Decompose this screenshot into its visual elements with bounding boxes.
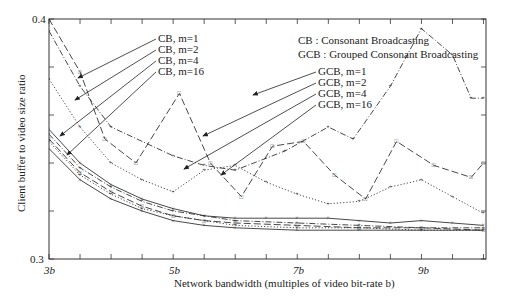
data-marker: □	[302, 138, 306, 144]
data-marker: ×	[171, 218, 174, 224]
x-axis-label: Network bandwidth (multiples of video bi…	[174, 277, 395, 290]
data-marker: ×	[109, 196, 112, 202]
gcb-annotations: GCB, m=1 GCB, m=2 GCB, m=4 GCB, m=16	[184, 65, 372, 175]
data-marker: □	[103, 136, 107, 142]
x-tick-9b: 9b	[418, 264, 430, 276]
x-tick-7b: 7b	[293, 264, 305, 276]
data-marker: ×	[482, 227, 485, 233]
arrow-cb-m1	[78, 39, 156, 78]
y-tick-top: 0.4	[32, 13, 46, 25]
data-marker: +	[419, 26, 423, 32]
data-marker: □	[469, 174, 473, 180]
y-axis-label: Client buffer to video size ratio	[15, 74, 27, 212]
annotation-gcb-m16: GCB, m=16	[318, 98, 372, 110]
data-marker: ×	[419, 227, 422, 233]
legend-note-gcb: GCB : Grouped Consonant Broadcasting	[298, 48, 479, 60]
data-marker: +	[78, 124, 82, 130]
data-marker: ×	[264, 215, 267, 221]
annotation-cb-m16: CB, m=16	[158, 65, 204, 77]
data-marker: □	[78, 69, 82, 75]
data-marker: □	[134, 160, 138, 166]
data-marker: +	[295, 191, 299, 197]
data-marker: +	[326, 201, 330, 207]
series-line-1	[49, 19, 484, 199]
data-marker: ×	[295, 227, 298, 233]
data-marker: □	[177, 90, 181, 96]
x-tick-3b: 3b	[43, 264, 56, 276]
y-tick-bottom: 0.3	[30, 253, 44, 265]
data-marker: □	[208, 160, 212, 166]
data-marker: ×	[202, 222, 205, 228]
arrow-gcb-m2	[203, 83, 316, 136]
data-marker: ×	[419, 218, 422, 224]
data-marker: ×	[326, 215, 329, 221]
arrow-gcb-m1	[253, 72, 316, 95]
data-marker: ×	[233, 225, 236, 231]
data-marker: □	[239, 194, 243, 200]
data-marker: +	[283, 148, 287, 154]
x-tick-5b: 5b	[169, 264, 181, 276]
data-marker: ×	[140, 208, 143, 214]
chart-canvas: ++++++++++++++□□□□□□□□□□□□□□□+++++++++++…	[0, 0, 506, 303]
data-marker: +	[357, 198, 361, 204]
data-marker: +	[171, 189, 175, 195]
arrow-gcb-m4	[184, 94, 316, 169]
data-marker: ×	[357, 227, 360, 233]
data-marker: +	[78, 83, 82, 89]
legend-note-cb: CB : Consonant Broadcasting	[298, 34, 430, 46]
data-marker: ×	[450, 220, 453, 226]
data-marker: +	[264, 179, 268, 185]
data-marker: □	[270, 143, 274, 149]
data-marker: +	[419, 177, 423, 183]
data-marker: +	[450, 194, 454, 200]
data-marker: +	[202, 167, 206, 173]
data-marker: ×	[78, 177, 81, 183]
data-marker: □	[333, 172, 337, 178]
data-marker: □	[395, 138, 399, 144]
data-marker: +	[326, 124, 330, 130]
arrow-cb-m4	[60, 61, 156, 136]
data-marker: +	[109, 124, 113, 130]
data-marker: +	[482, 95, 486, 101]
data-marker: +	[351, 136, 355, 142]
data-marker: ×	[388, 220, 391, 226]
data-marker: +	[109, 160, 113, 166]
data-marker: +	[140, 177, 144, 183]
data-marker: □	[432, 162, 436, 168]
series-line-3	[49, 129, 484, 225]
